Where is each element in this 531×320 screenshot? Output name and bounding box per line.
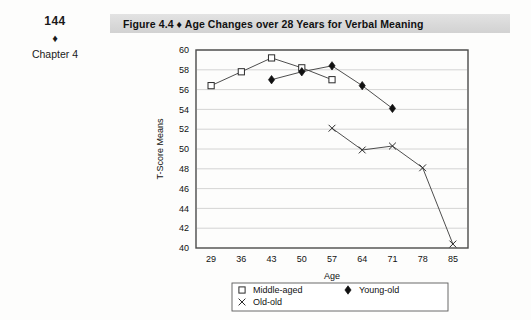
figure-banner: Figure 4.4 ♦ Age Changes over 28 Years f…: [110, 14, 510, 33]
y-tick-label: 44: [179, 204, 189, 214]
x-axis-title: Age: [324, 271, 340, 281]
datapoint-old-old: [329, 125, 336, 132]
x-tick-label: 78: [418, 254, 428, 264]
marker-square: [268, 55, 274, 61]
datapoint-young-old: [329, 62, 335, 70]
legend-label-old-old: Old-old: [253, 297, 282, 307]
marker-diamond: [359, 81, 365, 89]
marker-square: [239, 287, 245, 293]
y-tick-label: 56: [179, 85, 189, 95]
datapoint-middle-aged: [268, 55, 274, 61]
datapoint-young-old: [359, 81, 365, 89]
y-tick-label: 58: [179, 65, 189, 75]
y-tick-label: 48: [179, 164, 189, 174]
x-tick-label: 85: [448, 254, 458, 264]
datapoint-old-old: [419, 164, 426, 171]
datapoint-middle-aged: [238, 69, 244, 75]
x-tick-label: 43: [267, 254, 277, 264]
y-tick-label: 50: [179, 144, 189, 154]
x-tick-label: 64: [357, 254, 367, 264]
y-tick-label: 60: [179, 45, 189, 55]
marker-diamond: [329, 62, 335, 70]
marker-square: [238, 69, 244, 75]
x-tick-label: 36: [236, 254, 246, 264]
datapoint-young-old: [268, 76, 274, 84]
datapoint-middle-aged: [208, 83, 214, 89]
series-line-young-old: [272, 66, 393, 109]
x-tick-label: 71: [387, 254, 397, 264]
y-tick-label: 42: [179, 223, 189, 233]
y-tick-label: 46: [179, 184, 189, 194]
datapoint-old-old: [449, 241, 456, 248]
y-tick-label: 54: [179, 105, 189, 115]
figure-title: Figure 4.4 ♦ Age Changes over 28 Years f…: [123, 18, 424, 30]
marker-diamond: [268, 76, 274, 84]
marker-diamond: [389, 104, 395, 112]
legend-label-middle-aged: Middle-aged: [253, 285, 303, 295]
marker-square: [329, 77, 335, 83]
x-tick-label: 50: [297, 254, 307, 264]
x-tick-label: 29: [206, 254, 216, 264]
figure-chart: 4042444648505254565860293643505764717885…: [0, 38, 531, 320]
legend-label-young-old: Young-old: [359, 285, 399, 295]
page-number: 144: [0, 14, 110, 28]
y-tick-label: 52: [179, 124, 189, 134]
legend-marker-middle-aged: [239, 287, 245, 293]
x-tick-label: 57: [327, 254, 337, 264]
line-chart: 4042444648505254565860293643505764717885…: [0, 38, 531, 320]
marker-square: [208, 83, 214, 89]
datapoint-young-old: [389, 104, 395, 112]
y-axis-title: T-Score Means: [155, 118, 165, 180]
y-tick-label: 40: [179, 243, 189, 253]
datapoint-middle-aged: [329, 77, 335, 83]
